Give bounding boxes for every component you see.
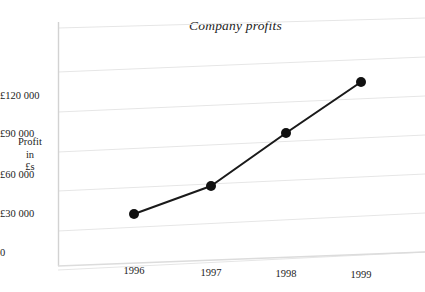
- x-tick-label-1996: 1996: [111, 265, 157, 276]
- data-point-1996: [129, 209, 139, 219]
- data-point-1997: [206, 181, 216, 191]
- x-tick-label-1999: 1999: [338, 269, 384, 280]
- plot-area: [0, 0, 425, 292]
- data-point-1998: [281, 128, 291, 138]
- gridline-30000: [58, 174, 425, 191]
- gridline-0: [58, 213, 425, 231]
- x-tick-label-1997: 1997: [188, 267, 234, 278]
- data-point-1999: [356, 77, 366, 87]
- gridline-60000: [58, 135, 425, 152]
- gridline-150000: [58, 18, 425, 28]
- gridline-90000: [58, 96, 425, 112]
- x-tick-label-1998: 1998: [263, 268, 309, 279]
- series-line-company-profits: [134, 82, 361, 214]
- gridline-120000: [58, 57, 425, 72]
- data-point-markers: [129, 77, 366, 219]
- chart-figure: Company profits Profit in £s 0 £30 000 £…: [0, 0, 425, 292]
- gridlines: [58, 18, 425, 270]
- x-axis-line: [58, 252, 425, 266]
